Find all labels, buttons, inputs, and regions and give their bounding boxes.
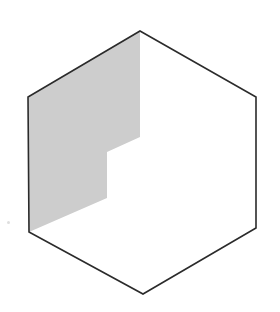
figure-canvas: Shaded hexagonal cube figure Line drawin… (0, 0, 280, 312)
stray-speck (7, 221, 10, 224)
hexagon-figure-svg: Shaded hexagonal cube figure Line drawin… (0, 0, 280, 312)
